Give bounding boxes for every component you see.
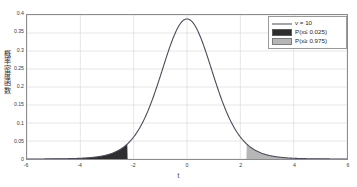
y-tick-label: 0.05 [14, 139, 24, 144]
x-axis-label: t [0, 172, 357, 179]
x-tick-label: -6 [24, 163, 29, 168]
y-tick-label: 0.15 [14, 103, 24, 108]
legend-swatch-dark-icon [272, 29, 292, 36]
y-tick-label: 0 [21, 157, 24, 162]
legend-item-nu[interactable]: ν = 10 [272, 19, 343, 28]
legend-label-lower-tail: P(x≤ 0.025) [295, 29, 327, 35]
y-tick-label: 0.2 [17, 84, 24, 89]
x-tick-label: 2 [239, 163, 242, 168]
y-tick-label: 0.35 [14, 30, 24, 35]
y-tick-label: 0.4 [17, 11, 24, 16]
x-tick-label: 4 [293, 163, 296, 168]
legend-item-upper-tail[interactable]: P(x≥ 0.975) [272, 37, 343, 46]
x-tick-label: 0 [186, 163, 189, 168]
x-tick-label: 6 [347, 163, 350, 168]
legend-label-nu: ν = 10 [295, 20, 312, 26]
x-tick-label: -4 [77, 163, 82, 168]
y-tick-label: 0.25 [14, 66, 24, 71]
legend-box[interactable]: ν = 10 P(x≤ 0.025) P(x≥ 0.975) [268, 16, 347, 49]
y-axis-label: 概率密度函数 [2, 50, 13, 94]
legend-swatch-light-icon [272, 38, 292, 45]
y-tick-label: 0.1 [17, 121, 24, 126]
y-tick-label: 0.3 [17, 48, 24, 53]
legend-line-key-icon [272, 21, 292, 27]
figure-canvas: 00.050.10.150.20.250.30.350.4 -6-4-20246… [0, 0, 357, 187]
legend-label-upper-tail: P(x≥ 0.975) [295, 38, 327, 44]
x-tick-label: -2 [131, 163, 136, 168]
legend-item-lower-tail[interactable]: P(x≤ 0.025) [272, 28, 343, 37]
